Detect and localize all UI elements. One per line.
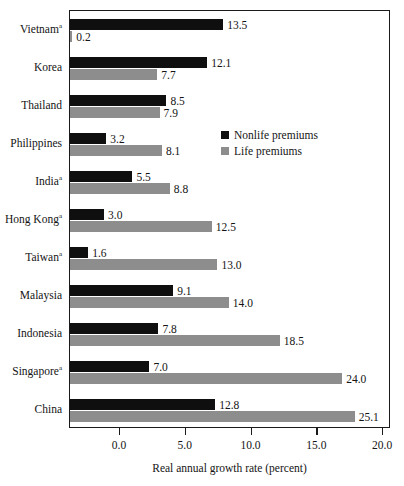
category-label: Vietnama <box>0 23 62 35</box>
bar-nonlife <box>70 399 215 410</box>
category-label: Thailand <box>0 99 62 111</box>
x-tick-label: 15.0 <box>306 438 326 452</box>
category-label: Hong Konga <box>0 213 62 225</box>
bar-life <box>70 69 157 80</box>
x-tick <box>382 428 383 435</box>
x-tick-label: 5.0 <box>178 438 192 452</box>
bar-value-label: 7.7 <box>161 70 175 81</box>
bar-value-label: 9.1 <box>177 286 191 297</box>
footnote-marker: a <box>59 212 62 220</box>
x-tick <box>251 428 252 435</box>
x-tick <box>119 428 120 435</box>
legend-swatch-nonlife-icon <box>221 131 229 139</box>
bar-value-label: 18.5 <box>284 336 304 347</box>
bar-nonlife <box>70 209 104 220</box>
legend-swatch-life-icon <box>221 147 229 155</box>
bar-nonlife <box>70 247 88 258</box>
category-axis-labels: VietnamaKoreaThailandPhilippinesIndiaaHo… <box>0 10 66 428</box>
bar-value-label: 8.5 <box>170 96 184 107</box>
footnote-marker: a <box>59 22 62 30</box>
bar-life <box>70 335 280 346</box>
bars-layer: 13.50.212.17.78.57.93.28.15.58.83.012.51… <box>70 11 389 427</box>
bar-nonlife <box>70 171 132 182</box>
bar-value-label: 3.2 <box>110 134 124 145</box>
x-axis-ticks <box>69 428 390 437</box>
category-label: Malaysia <box>0 289 62 301</box>
bar-value-label: 7.8 <box>162 324 176 335</box>
category-label: Singaporea <box>0 365 62 377</box>
bar-life <box>70 107 160 118</box>
bar-life <box>70 411 355 422</box>
bar-life <box>70 145 162 156</box>
bar-value-label: 3.0 <box>108 210 122 221</box>
category-label: China <box>0 403 62 415</box>
x-tick-label: 0.0 <box>112 438 126 452</box>
bar-chart: VietnamaKoreaThailandPhilippinesIndiaaHo… <box>0 0 404 486</box>
bar-life <box>70 221 212 232</box>
bar-value-label: 7.9 <box>164 108 178 119</box>
bar-value-label: 14.0 <box>233 298 253 309</box>
x-tick <box>185 428 186 435</box>
category-label: Indonesia <box>0 327 62 339</box>
x-axis-tick-labels: 0.05.010.015.020.0 <box>69 438 390 454</box>
bar-value-label: 8.1 <box>166 146 180 157</box>
chart-legend: Nonlife premiums Life premiums <box>221 128 351 160</box>
bar-value-label: 12.5 <box>216 222 236 233</box>
category-label: Philippines <box>0 137 62 149</box>
bar-nonlife <box>70 285 173 296</box>
legend-item-life: Life premiums <box>221 144 351 158</box>
bar-value-label: 24.0 <box>346 374 366 385</box>
bar-life <box>70 373 342 384</box>
bar-life <box>70 297 229 308</box>
bar-nonlife <box>70 361 149 372</box>
bar-value-label: 12.1 <box>211 58 231 69</box>
x-tick-label: 10.0 <box>240 438 260 452</box>
x-tick <box>316 428 317 435</box>
legend-label-nonlife: Nonlife premiums <box>234 129 318 141</box>
bar-value-label: 5.5 <box>136 172 150 183</box>
category-label: Indiaa <box>0 175 62 187</box>
x-tick-label: 20.0 <box>372 438 392 452</box>
x-axis-title: Real annual growth rate (percent) <box>69 462 390 474</box>
legend-item-nonlife: Nonlife premiums <box>221 128 351 142</box>
bar-value-label: 13.5 <box>227 20 247 31</box>
bar-nonlife <box>70 133 106 144</box>
footnote-marker: a <box>59 174 62 182</box>
bar-value-label: 7.0 <box>153 362 167 373</box>
bar-life <box>70 183 170 194</box>
category-label: Taiwana <box>0 251 62 263</box>
plot-area: 13.50.212.17.78.57.93.28.15.58.83.012.51… <box>69 10 390 428</box>
bar-value-label: 13.0 <box>221 260 241 271</box>
bar-life <box>70 259 217 270</box>
category-label: Korea <box>0 61 62 73</box>
bar-value-label: 25.1 <box>359 412 379 423</box>
bar-nonlife <box>70 57 207 68</box>
bar-nonlife <box>70 323 158 334</box>
footnote-marker: a <box>59 364 62 372</box>
legend-label-life: Life premiums <box>234 145 302 157</box>
bar-value-label: 1.6 <box>92 248 106 259</box>
footnote-marker: a <box>59 250 62 258</box>
bar-nonlife <box>70 95 166 106</box>
bar-value-label: 0.2 <box>76 32 90 43</box>
bar-value-label: 12.8 <box>219 400 239 411</box>
bar-life <box>70 31 72 42</box>
bar-value-label: 8.8 <box>174 184 188 195</box>
bar-nonlife <box>70 19 223 30</box>
